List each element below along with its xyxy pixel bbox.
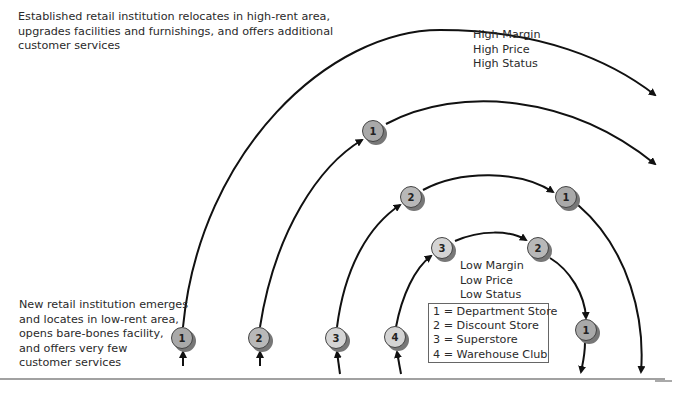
bottom-description: New retail institution emerges and locat… (19, 298, 188, 371)
node-discount-store: 2 (248, 327, 270, 349)
legend: 1 = Department Store 2 = Discount Store … (428, 303, 549, 363)
legend-item-department-store: 1 = Department Store (433, 305, 548, 319)
node-superstore: 3 (325, 327, 347, 349)
node-department-store: 1 (171, 327, 193, 349)
legend-item-discount-store: 2 = Discount Store (433, 319, 548, 333)
node-discount-store: 2 (400, 186, 422, 208)
node-department-store: 1 (575, 319, 597, 341)
legend-item-superstore: 3 = Superstore (433, 333, 548, 347)
low-label: Low Margin Low Price Low Status (460, 259, 524, 303)
node-superstore: 3 (431, 237, 453, 259)
node-warehouse-club: 4 (384, 326, 406, 348)
high-label: High Margin High Price High Status (473, 28, 540, 72)
node-discount-store: 2 (527, 237, 549, 259)
node-department-store: 1 (555, 186, 577, 208)
top-description: Established retail institution relocates… (18, 10, 333, 54)
legend-item-warehouse-club: 4 = Warehouse Club (433, 348, 548, 362)
arc-department-store-outer (183, 30, 655, 327)
node-department-store: 1 (362, 120, 384, 142)
